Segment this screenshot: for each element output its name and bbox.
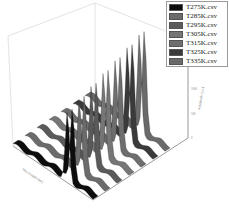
z-tick-label: 0: [191, 136, 193, 140]
z-tick-label: 500: [191, 112, 196, 116]
series-ribbons: [13, 32, 170, 200]
legend-swatch: [169, 40, 183, 47]
legend-item: T275K.csv: [169, 3, 225, 12]
legend-swatch: [169, 49, 183, 56]
legend-item: T285K.csv: [169, 12, 225, 21]
legend-label: T285K.csv: [186, 12, 217, 21]
x-axis-title: Wavelength (nm): [21, 167, 44, 184]
z-tick-label: 1000: [191, 87, 198, 91]
legend-item: T335K.csv: [169, 57, 225, 66]
legend-swatch: [169, 31, 183, 38]
legend-item: T315K.csv: [169, 39, 225, 48]
legend-swatch: [169, 22, 183, 29]
legend: T275K.csvT285K.csvT295K.csvT305K.csvT315…: [166, 1, 228, 67]
legend-swatch: [169, 58, 183, 65]
legend-label: T295K.csv: [186, 21, 217, 30]
legend-label: T315K.csv: [186, 39, 217, 48]
z-axis-title: Amplitude (a.u.): [197, 86, 205, 110]
legend-label: T335K.csv: [186, 57, 217, 66]
legend-item: T305K.csv: [169, 30, 225, 39]
legend-item: T295K.csv: [169, 21, 225, 30]
legend-label: T325K.csv: [186, 48, 217, 57]
legend-swatch: [169, 4, 183, 11]
legend-swatch: [169, 13, 183, 20]
legend-label: T275K.csv: [186, 3, 217, 12]
legend-item: T325K.csv: [169, 48, 225, 57]
legend-label: T305K.csv: [186, 30, 217, 39]
